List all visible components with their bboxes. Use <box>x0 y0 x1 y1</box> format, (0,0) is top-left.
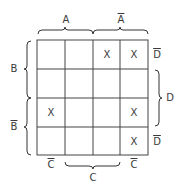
brace-C <box>65 162 120 169</box>
label-D-bar-bottom: D <box>150 137 164 147</box>
cell-r0-c2: X <box>93 50 121 60</box>
brace-D <box>155 70 162 126</box>
label-D-bar-top: D <box>150 50 164 60</box>
label-B: B <box>7 64 21 74</box>
cell-r2-c0: X <box>37 108 65 118</box>
label-C: C <box>86 173 100 183</box>
label-D: D <box>163 93 177 103</box>
label-A-bar: A <box>114 15 128 25</box>
brace-B <box>24 41 31 98</box>
cell-r0-c3: X <box>120 50 148 60</box>
label-B-bar: B <box>7 122 21 132</box>
label-C-bar-right: C <box>127 160 141 170</box>
label-A: A <box>59 15 73 25</box>
brace-A-bar <box>93 27 148 34</box>
cell-r3-c3: X <box>120 137 148 147</box>
cell-r2-c3: X <box>120 108 148 118</box>
brace-A <box>38 27 93 34</box>
kmap-lines <box>0 0 184 186</box>
label-C-bar-left: C <box>44 160 58 170</box>
brace-B-bar <box>24 98 31 155</box>
